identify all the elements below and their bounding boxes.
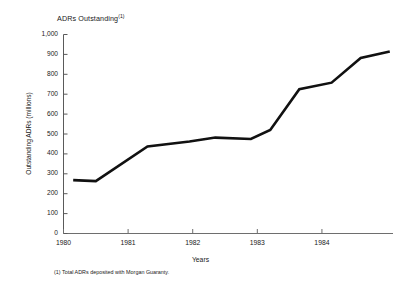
chart-footnote: (1) Total ADRs deposited with Morgan Gua… xyxy=(54,269,169,275)
plot-area xyxy=(0,0,401,292)
data-line-adrs-outstanding xyxy=(73,51,390,181)
chart-figure: ADRs Outstanding(1) Outstanding ADRs (mi… xyxy=(0,0,401,292)
